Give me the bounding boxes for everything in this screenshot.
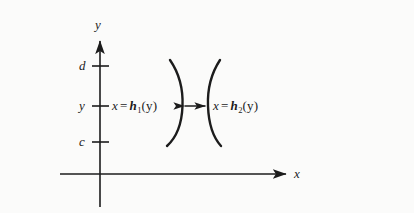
right-eq-operator: = bbox=[219, 98, 231, 113]
left-eq-argument: (y) bbox=[141, 98, 157, 113]
y-axis-label: y bbox=[95, 18, 101, 31]
left-boundary-curve bbox=[167, 60, 183, 146]
figure-container: y x d y c x=h1(y) x=h2(y) bbox=[0, 0, 414, 213]
left-eq-function-name: h bbox=[130, 98, 137, 113]
right-eq-subscript: 2 bbox=[238, 105, 242, 115]
left-eq-subscript: 1 bbox=[137, 105, 141, 115]
figure-drawing bbox=[0, 0, 414, 213]
y-axis-tick-label-d: d bbox=[79, 59, 86, 72]
right-eq-function-name: h bbox=[231, 98, 238, 113]
right-curve-equation-label: x=h2(y) bbox=[213, 99, 258, 112]
y-axis-tick-label-c: c bbox=[79, 135, 85, 148]
y-axis-tick-label-y: y bbox=[79, 99, 85, 112]
left-curve-equation-label: x=h1(y) bbox=[112, 99, 157, 112]
x-axis-label: x bbox=[294, 167, 300, 180]
left-eq-operator: = bbox=[118, 98, 130, 113]
right-eq-argument: (y) bbox=[242, 98, 258, 113]
